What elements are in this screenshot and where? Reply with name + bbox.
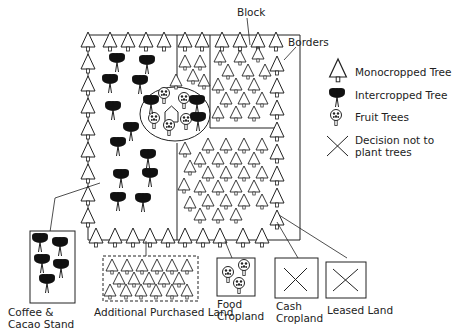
cash-cropland-box [275, 258, 318, 298]
legend-label-monocropped: Monocropped Tree [355, 66, 452, 78]
leased-land-label: Leased Land [327, 304, 393, 316]
x-mark-icon [327, 136, 348, 156]
borders-label: Borders [288, 36, 329, 48]
additional-land-box [103, 256, 198, 301]
block-label: Block [237, 6, 265, 18]
coffee-cacao-stand-box [30, 231, 75, 303]
monocrop-strip [170, 55, 210, 89]
intercropped-tree-icon [329, 88, 345, 107]
legend-label-decision: Decision not to plant trees [355, 134, 435, 158]
monocropped-tree-icon [330, 59, 347, 82]
food-cropland-label: Food Cropland [217, 298, 267, 322]
food-cropland-box [217, 258, 255, 296]
additional-land-label: Additional Purchased Land [94, 306, 233, 318]
coffee-cacao-label: Coffee & Cacao Stand [8, 306, 80, 330]
block-upper [212, 47, 271, 121]
fruit-tree-icon [331, 110, 342, 126]
homestead [140, 87, 210, 141]
legend-label-intercropped: Intercropped Tree [355, 89, 447, 101]
cash-cropland-label: Cash Cropland [276, 300, 324, 324]
block-lower [178, 138, 268, 223]
legend-icons [327, 59, 348, 156]
leased-land-box [326, 262, 366, 298]
legend-label-fruit: Fruit Trees [355, 111, 409, 123]
